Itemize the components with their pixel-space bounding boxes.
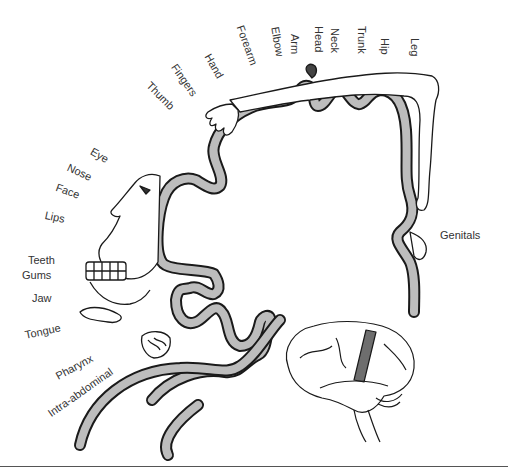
bottom-divider [0,466,508,467]
label-trunk: Trunk [356,26,367,54]
label-head: Head [313,26,324,52]
label-jaw: Jaw [32,293,52,304]
brain-inset [286,322,414,443]
label-genitals: Genitals [440,230,480,241]
label-arm: Arm [289,34,300,54]
homunculus-face [80,174,170,358]
label-teeth: Teeth [28,255,55,266]
label-leg: Leg [409,38,420,56]
label-neck: Neck [329,28,340,53]
label-hip: Hip [379,38,390,55]
homunculus-diagram: Leg Hip Trunk Neck Head Arm Elbow Forear… [0,0,508,470]
label-gums: Gums [22,270,51,281]
